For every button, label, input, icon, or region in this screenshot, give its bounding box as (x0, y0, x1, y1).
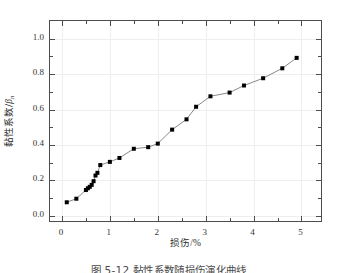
data-point-marker (208, 94, 212, 98)
data-point-marker (65, 200, 69, 204)
data-point-marker (90, 183, 94, 187)
y-tick-label: 0.8 (22, 67, 44, 77)
plot-wrapper: 012345 0.00.20.40.60.81.0 损伤/% 黏性系数/βn (0, 0, 337, 245)
data-point-marker (108, 160, 112, 164)
x-axis-label-text: 损伤 (170, 237, 190, 248)
data-point-marker (242, 84, 246, 88)
y-tick-label: 0.6 (22, 103, 44, 113)
y-tick-label: 0.0 (22, 209, 44, 219)
y-tick-label: 0.2 (22, 173, 44, 183)
data-point-marker (170, 128, 174, 132)
data-point-marker (228, 91, 232, 95)
data-point-marker (280, 66, 284, 70)
y-axis-label-subscript: n (8, 96, 15, 99)
y-tick-label: 0.4 (22, 138, 44, 148)
y-tick-label: 1.0 (22, 32, 44, 42)
data-point-marker (194, 105, 198, 109)
y-axis-label: 黏性系数/βn (1, 66, 16, 176)
data-point-marker (261, 76, 265, 80)
series-markers (65, 56, 299, 204)
y-axis-label-symbol: β (4, 99, 14, 104)
x-axis-label: 损伤/% (49, 235, 322, 249)
data-point-marker (95, 171, 99, 175)
data-point-marker (146, 145, 150, 149)
figure-container: 012345 0.00.20.40.60.81.0 损伤/% 黏性系数/βn 图… (0, 0, 337, 273)
data-point-marker (295, 56, 299, 60)
x-axis-label-unit: /% (190, 238, 201, 248)
y-axis-label-text: 黏性系数/ (3, 104, 14, 147)
data-point-marker (117, 156, 121, 160)
data-point-marker (185, 117, 189, 121)
data-series-plot (50, 21, 323, 223)
figure-caption: 图 5-12 黏性系数随损伤演化曲线 (0, 264, 337, 273)
data-point-marker (132, 147, 136, 151)
data-point-marker (156, 142, 160, 146)
plot-frame (49, 20, 322, 222)
data-point-marker (92, 179, 96, 183)
data-point-marker (98, 163, 102, 167)
data-point-marker (74, 197, 78, 201)
